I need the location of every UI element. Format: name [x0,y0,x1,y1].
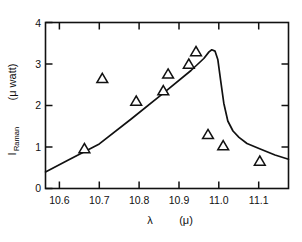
y-tick-label: 0 [35,182,41,194]
y-tick-label: 3 [35,58,41,70]
data-point-marker [163,69,174,78]
x-axis-ticks-bottom [59,182,258,189]
y-tick-label: 1 [35,141,41,153]
y-tick-label: 2 [35,99,41,111]
data-point-marker [79,144,90,153]
data-curve [46,50,289,172]
y-tick-labels: 0 1 2 3 4 [35,17,41,195]
x-axis-title: λ (μ) [147,214,193,226]
x-tick-labels: 10.6 10.7 10.8 10.9 11.0 11.1 [49,194,268,206]
x-tick-label: 10.9 [169,194,190,206]
y-axis-title: I Raman (μ watt) [6,64,21,156]
y-axis-title-sub: Raman [12,127,21,151]
x-axis-title-units: (μ) [179,214,193,226]
data-point-marker [97,73,108,82]
y-axis-title-main: I [6,152,18,155]
data-point-marker [218,141,229,150]
chart-svg: 10.6 10.7 10.8 10.9 11.0 11.1 0 1 2 3 4 … [0,0,302,242]
data-point-marker [203,129,214,138]
x-tick-label: 10.7 [89,194,110,206]
data-point-marker [131,96,142,105]
raman-intensity-chart: 10.6 10.7 10.8 10.9 11.0 11.1 0 1 2 3 4 … [0,0,302,242]
data-markers [79,47,265,166]
x-tick-label: 10.8 [129,194,150,206]
y-axis-title-units: (μ watt) [6,64,18,101]
raman-curve-path [46,50,289,172]
y-axis-ticks-left [46,23,53,189]
data-point-marker [191,47,202,56]
data-point-marker [183,59,194,68]
x-tick-label: 10.6 [49,194,70,206]
x-tick-label: 11.1 [249,194,269,206]
data-point-marker [254,156,265,165]
axis-box [46,23,289,189]
x-axis-title-symbol: λ [147,214,153,226]
x-axis-ticks-top [59,23,258,30]
y-axis-ticks-right [282,64,289,147]
x-tick-label: 11.0 [209,194,229,206]
y-tick-label: 4 [35,17,41,29]
plot-frame [46,23,289,189]
